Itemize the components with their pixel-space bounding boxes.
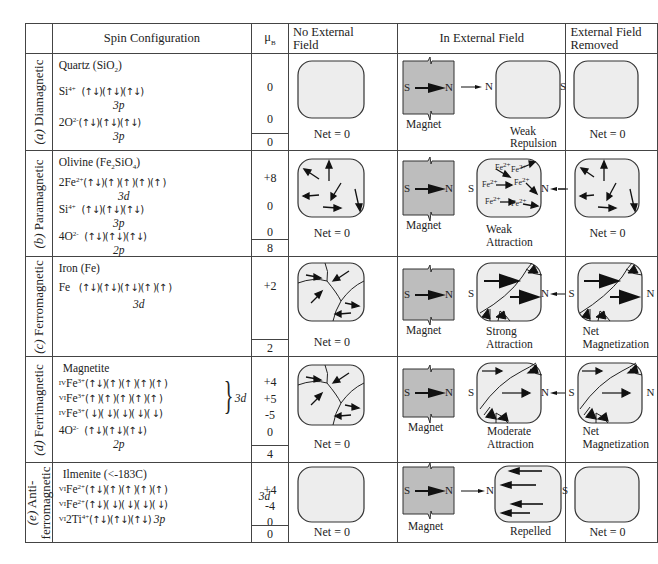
effect-caption-2: Repulsion [510, 137, 557, 149]
net-caption: Net = 0 [289, 127, 375, 142]
row-letter: (a) [31, 129, 46, 144]
header-spin-configuration: Spin Configuration [52, 24, 252, 54]
net-caption: Net = 0 [566, 525, 648, 540]
net-caption: Net = 0 [289, 437, 375, 452]
effect-caption-1: Moderate [487, 425, 531, 437]
config-line: VIFe2+(↑↓)( ↓)( ↓)( ↓)( ↓) [59, 497, 252, 512]
fe-ion-label: Fe2+ [514, 178, 529, 187]
effect-caption-2: Attraction [487, 438, 534, 450]
sample-south-label: S [468, 386, 474, 398]
effect-caption-2: Attraction [486, 338, 533, 350]
mineral-name: Iron (Fe) [59, 261, 252, 276]
no-field-ferrimagnetic: Net = 0 [288, 357, 397, 463]
header-mu-b: μB [252, 24, 289, 54]
effect-caption-1: Repelled [510, 525, 551, 537]
mu-paramagnetic: +8 0 0 8 [252, 151, 289, 257]
mu-total: 2 [252, 339, 288, 356]
mu-antiferromagnetic: +4 -4 0 0 [252, 463, 289, 543]
spin-config-ferromagnetic: Iron (Fe) Fe (↑↓)(↑↓)(↑↓)(↑ )(↑ ) 3d [52, 257, 252, 357]
mu-total: 0 [252, 525, 288, 542]
config-line: 2O2-(↑↓)(↑↓)(↑↓) [59, 115, 252, 130]
row-ferromagnetic: (c) Ferromagnetic Iron (Fe) Fe (↑↓)(↑↓)(… [26, 257, 658, 357]
spin-config-ferrimagnetic: Magnetite IVFe3+(↑↓)(↑ )(↑ )(↑ )(↑ ) VIF… [52, 357, 252, 463]
spin-config-diamagnetic: Quartz (SiO2) Si4+ (↑↓)(↑↓)(↑↓) 3p 2O2-(… [52, 54, 252, 151]
sample-north-label: N [541, 386, 549, 398]
mu-total: 4 [252, 445, 288, 462]
fe-group: IVFe3+(↑↓)(↑ )(↑ )(↑ )(↑ ) VIFe3+(↑ )(↑ … [59, 376, 252, 421]
orbital-label: 3p [59, 99, 179, 111]
magnet-south-label: S [404, 386, 410, 398]
net-caption: Net = 0 [289, 525, 375, 540]
magnet-south-label: S [404, 182, 410, 194]
orbital-label: 2p [59, 438, 179, 450]
config-line: 4O2- (↑↓)(↑↓)(↑↓) [59, 423, 252, 438]
magnet-north-label: N [445, 81, 453, 93]
orbital-label: 3d [59, 190, 189, 202]
config-line: Si4+ (↑↓)(↑↓)(↑↓) [59, 202, 252, 217]
row-label-paramagnetic: (b) Paramagnetic [26, 151, 53, 257]
row-antiferromagnetic: (e) Anti-ferromagnetic Ilmenite (<-183C)… [26, 463, 658, 543]
header-in-field-label: In External Field [439, 31, 524, 45]
in-field-ferrimagnetic: S N S N Magnet Moderate Attraction [398, 357, 566, 463]
magnet-caption: Magnet [408, 520, 443, 532]
spin-config-antiferromagnetic: Ilmenite (<-183C) VIFe2+(↑↓)(↑ )(↑ )(↑ )… [52, 463, 252, 543]
net-caption: Net = 0 [566, 226, 648, 241]
magnet-north-label: N [445, 182, 453, 194]
config-line: 2Fe2+(↑↓)(↑ )(↑ )(↑ )(↑ ) [59, 175, 252, 190]
sample-north-label: N [541, 287, 549, 299]
header-blank [26, 24, 53, 54]
row-ferrimagnetic: (d) Ferrimagnetic Magnetite IVFe3+(↑↓)(↑… [26, 357, 658, 463]
magnet-caption: Magnet [408, 421, 443, 433]
removed-diamagnetic: Net = 0 [566, 54, 658, 151]
orbital-label: 3p [59, 217, 179, 229]
sample-north-label: N [646, 386, 654, 398]
fe-group: VIFe2+(↑↓)(↑ )(↑ )(↑ )(↑ ) VIFe2+(↑↓)( ↓… [59, 482, 252, 512]
row-name: Diamagnetic [31, 60, 46, 126]
sample-north-label: N [485, 80, 493, 92]
orbital-label: 3d [59, 298, 219, 310]
magnet-north-label: N [445, 484, 453, 496]
net-caption-2: Magnetization [582, 438, 648, 450]
fe-ion-label: Fe2+ [482, 180, 497, 189]
sample-south-label: S [468, 287, 474, 299]
header-spin-label: Spin Configuration [104, 31, 200, 45]
effect-caption-1: Weak [486, 223, 512, 235]
group-orbital-label: 3d [235, 392, 247, 404]
mu-ferromagnetic: +2 2 [252, 257, 289, 357]
row-paramagnetic: (b) Paramagnetic Olivine (Fe2SiO4) 2Fe2+… [26, 151, 658, 257]
in-field-antiferromagnetic: S N N S Magnet Repelled [398, 463, 566, 543]
sample-box [496, 61, 560, 118]
header-removed-l2: Removed [570, 38, 618, 52]
orbital-label: 3p [59, 130, 179, 142]
mu-value: 0 [252, 112, 288, 127]
magnetism-table: Spin Configuration μB No ExternalField I… [25, 23, 658, 543]
header-no-external-field: No ExternalField [288, 24, 397, 54]
fe-ion-label: Fe2+ [495, 163, 510, 172]
brace: } [223, 372, 233, 420]
config-line: IVFe3+(↑↓)(↑ )(↑ )(↑ )(↑ ) [59, 376, 252, 391]
config-line: IVFe3+( ↓)( ↓)( ↓)( ↓)( ↓) [59, 406, 252, 421]
row-label-antiferromagnetic: (e) Anti-ferromagnetic [26, 463, 53, 543]
magnet-south-label: S [404, 81, 410, 93]
mineral-name: Ilmenite (<-183C) [59, 467, 252, 482]
spin-config-paramagnetic: Olivine (Fe2SiO4) 2Fe2+(↑↓)(↑ )(↑ )(↑ )(… [52, 151, 252, 257]
row-label-diamagnetic: (a) Diamagnetic [26, 54, 53, 151]
header-no-field-l2: Field [293, 38, 319, 52]
mineral-name: Magnetite [59, 361, 252, 376]
net-caption-1: Net [582, 325, 599, 337]
effect-caption-1: Weak [510, 125, 536, 137]
mineral-name: Olivine (Fe2SiO4) [59, 155, 252, 175]
mu-total: 8 [252, 239, 288, 256]
no-field-paramagnetic: Net = 0 [288, 151, 397, 257]
net-caption: Net = 0 [289, 335, 375, 350]
in-field-diamagnetic: S N N S Magnet Weak Repulsion [398, 54, 566, 151]
fe-ion-label: Fe2+ [485, 197, 500, 206]
no-field-antiferromagnetic: Net = 0 [288, 463, 397, 543]
row-label-ferromagnetic: (c) Ferromagnetic [26, 257, 53, 357]
magnet-and-sample [398, 151, 568, 256]
removed-ferrimagnetic: S N Net Magnetization [566, 357, 658, 463]
net-caption-2: Magnetization [582, 338, 648, 350]
magnet-south-label: S [404, 288, 410, 300]
magnet-and-sample [398, 357, 568, 463]
effect-caption-2: Attraction [486, 236, 533, 248]
